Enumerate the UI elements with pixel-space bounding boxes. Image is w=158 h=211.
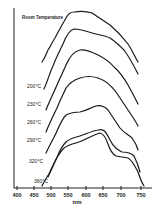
x-tick-label: 500 <box>46 192 55 198</box>
series-label-360c: 360°C <box>34 178 48 184</box>
series-label-200c: 200°C <box>27 83 41 89</box>
series-label-room-temperature: Room Temperature <box>22 15 63 20</box>
x-axis-title: nm <box>73 199 82 205</box>
x-tick-label: 450 <box>29 192 38 198</box>
series-label-320c: 320°C <box>29 158 43 164</box>
x-tick-label: 750 <box>136 192 145 198</box>
x-tick-label: 650 <box>98 192 107 198</box>
spectra-chart: 400 450 500 550 600 650 700 750 nm Room … <box>0 0 158 211</box>
curve-360c <box>42 133 144 186</box>
x-tick-label: 400 <box>12 192 21 198</box>
curve-320c <box>48 129 140 177</box>
x-tick-label: 550 <box>63 192 72 198</box>
curve-290c <box>46 106 138 153</box>
series-label-230c: 230°C <box>27 101 41 107</box>
series-label-290c: 290°C <box>27 137 41 143</box>
x-tick-label: 700 <box>116 192 125 198</box>
series-label-260c: 260°C <box>27 119 41 125</box>
x-tick-label: 600 <box>81 192 90 198</box>
